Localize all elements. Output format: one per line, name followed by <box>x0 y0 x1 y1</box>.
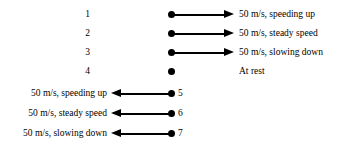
diagram-row: 1 50 m/s, speeding up <box>0 5 342 24</box>
object-label-6: 50 m/s, steady speed <box>28 104 107 123</box>
arrow-head-right-icon <box>224 10 234 18</box>
arrow-shaft-right-icon <box>171 52 227 54</box>
diagram-row: 4 At rest <box>0 62 342 81</box>
object-number-3: 3 <box>85 43 90 62</box>
object-number-4: 4 <box>85 62 90 81</box>
arrow-shaft-right-icon <box>171 33 227 35</box>
object-number-5: 5 <box>178 84 183 103</box>
diagram-row: 50 m/s, steady speed 6 <box>0 104 342 123</box>
object-number-6: 6 <box>178 104 183 123</box>
arrow-shaft-right-icon <box>171 14 227 16</box>
object-label-7: 50 m/s, slowing down <box>23 124 107 143</box>
arrow-shaft-left-icon <box>117 113 172 115</box>
object-label-2: 50 m/s, steady speed <box>239 24 318 43</box>
object-dot-icon <box>168 110 175 117</box>
object-dot-icon <box>168 130 175 137</box>
arrow-shaft-left-icon <box>117 133 172 135</box>
velocity-arrow-diagram: 1 50 m/s, speeding up 2 50 m/s, steady s… <box>0 0 342 146</box>
object-dot-icon <box>168 68 175 75</box>
object-label-3: 50 m/s, slowing down <box>239 43 323 62</box>
diagram-row: 3 50 m/s, slowing down <box>0 43 342 62</box>
arrow-head-right-icon <box>224 48 234 56</box>
diagram-row: 2 50 m/s, steady speed <box>0 24 342 43</box>
arrow-shaft-left-icon <box>117 93 172 95</box>
diagram-row: 50 m/s, speeding up 5 <box>0 84 342 103</box>
arrow-head-right-icon <box>224 29 234 37</box>
object-label-4: At rest <box>239 62 265 81</box>
diagram-row: 50 m/s, slowing down 7 <box>0 124 342 143</box>
object-number-7: 7 <box>178 124 183 143</box>
object-number-2: 2 <box>85 24 90 43</box>
object-label-1: 50 m/s, speeding up <box>239 5 315 24</box>
object-dot-icon <box>168 90 175 97</box>
object-number-1: 1 <box>85 5 90 24</box>
object-label-5: 50 m/s, speeding up <box>31 84 107 103</box>
